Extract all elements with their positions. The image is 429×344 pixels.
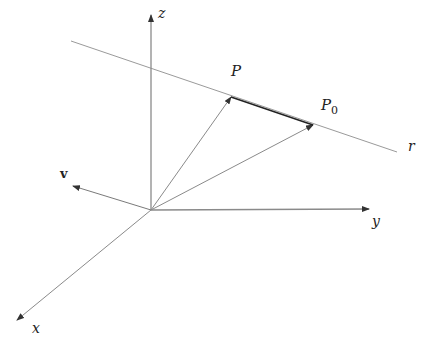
point-p0-label-subscript: 0 [331, 104, 338, 117]
y-axis-label: y [371, 213, 381, 229]
segment-p-p0 [231, 97, 313, 125]
point-p0-label: P0 [320, 96, 338, 117]
diagram-canvas: z y x r v P P0 [0, 0, 429, 344]
position-vector-p0 [151, 125, 313, 210]
x-axis [17, 210, 151, 320]
y-axis [151, 209, 369, 210]
position-vector-p [151, 97, 231, 210]
x-axis-label: x [32, 320, 40, 336]
point-p-label: P [230, 62, 242, 80]
line-r-label: r [408, 138, 416, 154]
vector-v-label: v [59, 166, 68, 181]
line-r [71, 41, 397, 152]
z-axis-label: z [157, 5, 166, 21]
vector-v [73, 186, 151, 210]
